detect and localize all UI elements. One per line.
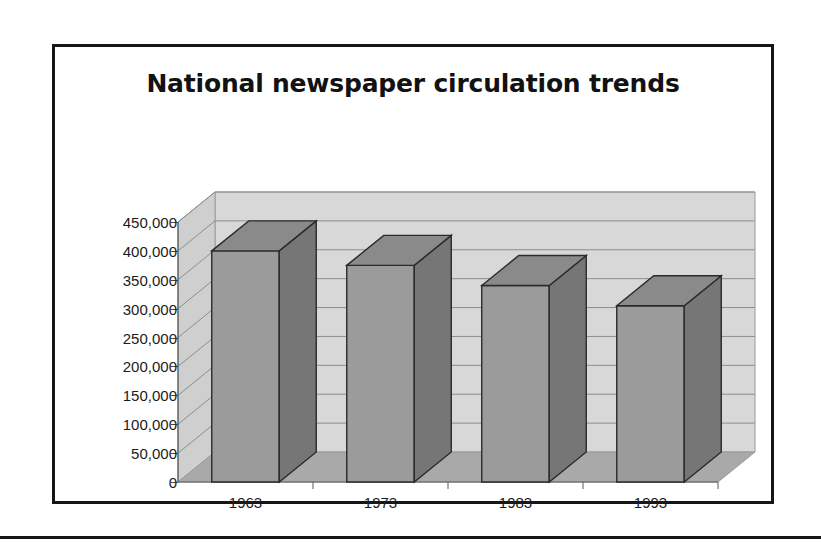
x-tick-label: 1983	[499, 494, 532, 511]
bar-chart: 050,000100,000150,000200,000250,000300,0…	[55, 47, 771, 501]
x-tick-label: 1963	[229, 494, 262, 511]
x-tick-label: 1973	[364, 494, 397, 511]
page-bottom-rule	[0, 536, 821, 539]
x-axis: 1963197319831993	[55, 47, 771, 501]
x-tick-label: 1993	[634, 494, 667, 511]
figure-frame: National newspaper circulation trends 05…	[52, 44, 774, 504]
